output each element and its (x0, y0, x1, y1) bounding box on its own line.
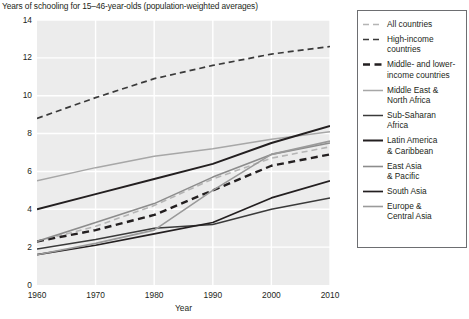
legend-swatch-icon (363, 59, 383, 70)
legend-swatch-icon (363, 201, 383, 212)
legend-item[interactable]: Middle- and lower- income countries (363, 59, 455, 79)
legend-item-label: Middle- and lower- income countries (387, 59, 455, 79)
page-title: Years of schooling for 15–46-year-olds (… (2, 1, 258, 11)
legend-item[interactable]: High-income countries (363, 34, 434, 54)
legend-swatch-icon (363, 34, 383, 45)
legend-item-label: Europe & Central Asia (387, 201, 432, 221)
x-axis-tick-label: 2000 (251, 290, 291, 300)
x-axis-tick-label: 1960 (17, 290, 57, 300)
x-axis-tick-label: 2010 (310, 290, 350, 300)
series-line (37, 126, 330, 209)
y-axis-tick-label: 6 (6, 166, 32, 176)
legend-swatch-icon (363, 186, 383, 197)
legend-item[interactable]: South Asia (363, 186, 427, 197)
x-axis-tick-label: 1970 (76, 290, 116, 300)
legend-item-label: Latin America & Caribbean (387, 135, 437, 155)
legend-item-label: All countries (387, 19, 432, 29)
y-axis-tick-label: 4 (6, 204, 32, 214)
y-axis-tick-label: 12 (6, 52, 32, 62)
y-axis-tick-label: 10 (6, 90, 32, 100)
legend-item-label: Sub-Saharan Africa (387, 110, 436, 130)
legend: All countriesHigh-income countriesMiddle… (357, 10, 467, 248)
legend-item[interactable]: Sub-Saharan Africa (363, 110, 436, 130)
legend-item[interactable]: Middle East & North Africa (363, 85, 438, 105)
legend-item-label: South Asia (387, 186, 427, 196)
plot-area (37, 20, 330, 285)
series-lines (37, 20, 330, 285)
legend-item-label: East Asia & Pacific (387, 161, 422, 181)
legend-swatch-icon (363, 85, 383, 96)
chart-container: Years of schooling for 15–46-year-olds (… (0, 0, 469, 319)
y-axis-tick-label: 0 (6, 280, 32, 290)
x-axis-title: Year (0, 303, 367, 313)
x-axis-tick-label: 1990 (193, 290, 233, 300)
y-axis-tick-label: 8 (6, 128, 32, 138)
legend-swatch-icon (363, 19, 383, 30)
legend-swatch-icon (363, 135, 383, 146)
y-axis-tick-label: 14 (6, 15, 32, 25)
legend-item[interactable]: East Asia & Pacific (363, 161, 422, 181)
x-axis-tick-label: 1980 (134, 290, 174, 300)
legend-item[interactable]: Latin America & Caribbean (363, 135, 437, 155)
legend-item-label: Middle East & North Africa (387, 85, 438, 105)
legend-swatch-icon (363, 161, 383, 172)
legend-item[interactable]: All countries (363, 19, 432, 30)
legend-swatch-icon (363, 110, 383, 121)
y-axis-tick-label: 2 (6, 242, 32, 252)
legend-item-label: High-income countries (387, 34, 434, 54)
legend-item[interactable]: Europe & Central Asia (363, 201, 432, 221)
series-line (37, 198, 330, 249)
